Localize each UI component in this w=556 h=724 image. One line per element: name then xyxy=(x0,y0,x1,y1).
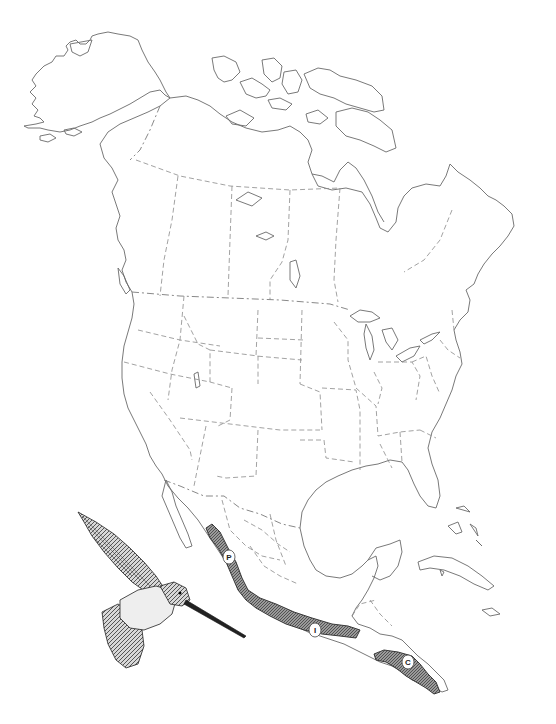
range-label-p: P xyxy=(223,550,235,564)
range-areas xyxy=(206,524,440,694)
coastline-alaska xyxy=(24,32,170,142)
range-map: P I C xyxy=(0,0,556,724)
state-borders xyxy=(124,160,460,626)
range-p xyxy=(206,524,360,638)
caribbean-islands xyxy=(418,506,500,616)
coastline-arctic-islands xyxy=(212,56,396,152)
svg-text:P: P xyxy=(226,553,232,562)
range-label-i: I xyxy=(309,623,321,637)
range-label-c: C xyxy=(402,655,414,669)
national-borders xyxy=(130,106,350,528)
svg-text:I: I xyxy=(314,626,316,635)
svg-text:C: C xyxy=(405,658,411,667)
